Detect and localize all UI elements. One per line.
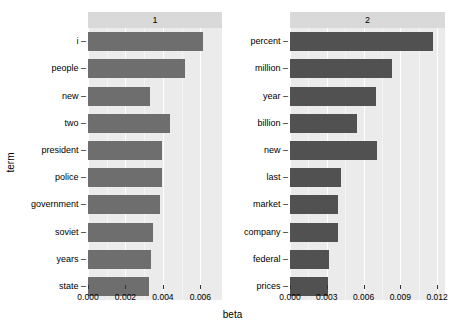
gridline-minor — [419, 28, 420, 300]
y-tick-label: market – — [0, 199, 288, 210]
y-tick-label: billion – — [0, 118, 288, 129]
bar — [290, 114, 357, 133]
x-tick-label: 0.004 — [143, 292, 183, 302]
y-tick-label: percent – — [0, 36, 288, 47]
x-axis-title: beta — [0, 309, 465, 320]
bar — [290, 141, 377, 160]
facet-strip-label-2: 2 — [365, 15, 370, 25]
facet-strip-1: 1 — [88, 12, 222, 28]
facet-strip-2: 2 — [290, 12, 445, 28]
x-tick-mark — [364, 285, 365, 289]
bar — [290, 250, 329, 269]
x-tick-mark — [437, 285, 438, 289]
y-tick-label: prices – — [0, 281, 288, 292]
facet-plot-area-2 — [290, 28, 445, 300]
y-tick-label: year – — [0, 91, 288, 102]
gridline-major — [400, 28, 401, 300]
y-tick-label: last – — [0, 172, 288, 183]
x-tick-mark — [290, 285, 291, 289]
faceted-bar-chart: term beta 1 2 i –people –new –two –presi… — [0, 0, 465, 331]
x-tick-label: 0.012 — [417, 292, 457, 302]
y-tick-label: new – — [0, 145, 288, 156]
y-tick-label: federal – — [0, 254, 288, 265]
y-tick-label: million – — [0, 63, 288, 74]
facet-panel-2: 2 — [290, 12, 445, 300]
gridline-major — [437, 28, 438, 300]
bar — [290, 195, 338, 214]
x-tick-label: 0.006 — [344, 292, 384, 302]
y-tick-label: company – — [0, 227, 288, 238]
x-tick-mark — [327, 285, 328, 289]
bar — [290, 223, 338, 242]
x-tick-label: 0.003 — [307, 292, 347, 302]
x-tick-label: 0.002 — [105, 292, 145, 302]
bar — [290, 59, 392, 78]
x-tick-label: 0.000 — [68, 292, 108, 302]
bar — [290, 168, 341, 187]
bar — [290, 87, 376, 106]
x-tick-mark — [400, 285, 401, 289]
bar — [290, 32, 433, 51]
facet-strip-label-1: 1 — [152, 15, 157, 25]
x-tick-label: 0.000 — [270, 292, 310, 302]
x-tick-label: 0.006 — [180, 292, 220, 302]
x-tick-label: 0.009 — [380, 292, 420, 302]
